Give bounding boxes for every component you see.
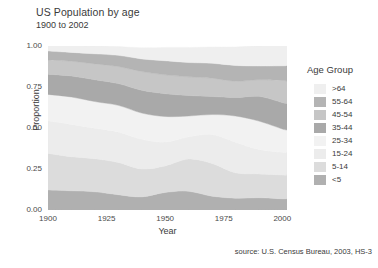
- legend-label: 5-14: [332, 162, 348, 172]
- legend-label: 35-44: [332, 123, 352, 133]
- y-tick-label: 1.00: [8, 42, 42, 50]
- legend-label: 15-24: [332, 149, 352, 159]
- legend-swatch: [314, 175, 326, 185]
- plot-area: [48, 46, 287, 210]
- y-tick-label: 0.50: [8, 124, 42, 132]
- x-tick-label: 1975: [215, 214, 233, 223]
- legend-item[interactable]: 25-34: [305, 134, 378, 147]
- y-tick-label: 0.00: [8, 206, 42, 214]
- legend-swatch: [314, 97, 326, 107]
- x-tick-label: 1950: [156, 214, 174, 223]
- legend-label: >64: [332, 84, 346, 94]
- legend-swatch: [314, 110, 326, 120]
- x-axis-label: Year: [48, 226, 287, 236]
- legend-swatch: [314, 84, 326, 94]
- legend-item[interactable]: <5: [305, 173, 378, 186]
- legend-swatch: [314, 149, 326, 159]
- y-tick-label: 0.25: [8, 165, 42, 173]
- legend: Age Group >6455-6445-5435-4425-3415-245-…: [305, 64, 378, 186]
- source-caption: source: U.S. Census Bureau, 2003, HS-3: [235, 247, 372, 256]
- legend-label: <5: [332, 175, 341, 185]
- legend-swatch: [314, 123, 326, 133]
- stacked-area-series: [48, 46, 287, 210]
- legend-title: Age Group: [307, 64, 378, 75]
- legend-label: 45-54: [332, 110, 352, 120]
- x-tick-label: 1900: [39, 214, 57, 223]
- legend-item[interactable]: 5-14: [305, 160, 378, 173]
- legend-item[interactable]: 55-64: [305, 95, 378, 108]
- legend-item[interactable]: >64: [305, 82, 378, 95]
- legend-swatch: [314, 162, 326, 172]
- legend-item[interactable]: 45-54: [305, 108, 378, 121]
- chart-title: US Population by age: [36, 6, 140, 18]
- x-tick-label: 1925: [98, 214, 116, 223]
- chart-root: US Population by age 1900 to 2002 Propor…: [0, 0, 378, 268]
- legend-swatch: [314, 136, 326, 146]
- legend-item[interactable]: 35-44: [305, 121, 378, 134]
- x-tick-label: 2000: [273, 214, 291, 223]
- legend-item[interactable]: 15-24: [305, 147, 378, 160]
- legend-label: 25-34: [332, 136, 352, 146]
- legend-label: 55-64: [332, 97, 352, 107]
- legend-items: >6455-6445-5435-4425-3415-245-14<5: [305, 82, 378, 186]
- chart-subtitle: 1900 to 2002: [36, 20, 89, 30]
- y-tick-label: 0.75: [8, 83, 42, 91]
